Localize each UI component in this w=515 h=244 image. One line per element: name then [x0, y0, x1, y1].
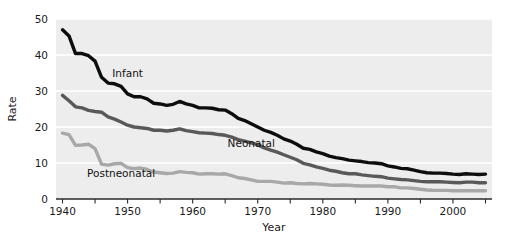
chart-canvas: 01020304050Rate1940195019601970198019902… — [0, 0, 515, 244]
y-tick-label: 50 — [35, 13, 48, 25]
series-label-infant: Infant — [112, 67, 143, 79]
y-tick-label: 40 — [35, 49, 48, 61]
x-tick-label: 2000 — [440, 205, 467, 217]
x-tick-label: 1980 — [309, 205, 336, 217]
y-tick-label: 10 — [35, 157, 48, 169]
x-tick-label: 1960 — [179, 205, 206, 217]
y-tick-label: 30 — [35, 85, 48, 97]
series-label-postneonatal: Postneonatal — [87, 167, 155, 179]
series-label-neonatal: Neonatal — [228, 137, 275, 149]
y-axis-title: Rate — [6, 96, 19, 121]
x-tick-label: 1990 — [375, 205, 402, 217]
y-tick-label: 20 — [35, 121, 48, 133]
x-tick-label: 1950 — [114, 205, 141, 217]
x-axis-title: Year — [261, 221, 286, 234]
x-tick-label: 1970 — [244, 205, 271, 217]
x-tick-label: 1940 — [49, 205, 76, 217]
y-tick-label: 0 — [41, 193, 48, 205]
line-chart: 01020304050Rate1940195019601970198019902… — [0, 0, 515, 244]
